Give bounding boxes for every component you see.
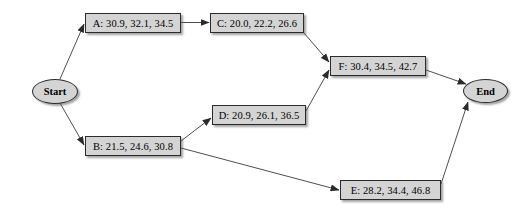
node-d-label: D: 20.9, 26.1, 36.5 [219,110,300,121]
node-c[interactable]: C: 20.0, 22.2, 26.6 [210,13,304,33]
node-a[interactable]: A: 30.9, 32.1, 34.5 [85,13,181,33]
node-e-label: E: 28.2, 34.4, 46.8 [351,185,430,196]
node-c-label: C: 20.0, 22.2, 26.6 [217,18,297,29]
node-end[interactable]: End [463,79,508,103]
edge-b-to-e [181,148,339,190]
node-d[interactable]: D: 20.9, 26.1, 36.5 [212,105,306,125]
node-b[interactable]: B: 21.5, 24.6, 30.8 [85,136,181,156]
node-f-label: F: 30.4, 34.5, 42.7 [339,61,418,72]
edge-f-to-end [426,70,466,84]
node-end-label: End [476,86,495,97]
node-e[interactable]: E: 28.2, 34.4, 46.8 [340,180,441,200]
edge-e-to-end [441,102,468,184]
node-b-label: B: 21.5, 24.6, 30.8 [93,141,173,152]
node-f[interactable]: F: 30.4, 34.5, 42.7 [330,56,426,76]
edge-d-to-f [306,70,329,111]
edge-start-to-a [60,24,84,79]
node-a-label: A: 30.9, 32.1, 34.5 [93,18,174,29]
diagram-canvas: Start A: 30.9, 32.1, 34.5 B: 21.5, 24.6,… [0,0,532,217]
node-start[interactable]: Start [32,79,78,104]
edge-b-to-d [181,118,211,141]
edge-start-to-b [60,103,84,145]
node-start-label: Start [44,86,67,97]
edge-c-to-f [304,33,329,62]
